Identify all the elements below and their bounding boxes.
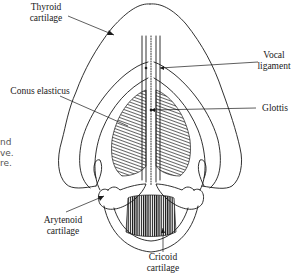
label-conus-elasticus: Conus elasticus bbox=[4, 86, 76, 97]
conus-leader bbox=[60, 96, 128, 126]
label-arytenoid-cartilage: Arytenoid cartilage bbox=[38, 215, 88, 236]
posterior-hatch bbox=[126, 195, 176, 237]
thyroid-leader bbox=[68, 16, 114, 35]
vocal-leader bbox=[160, 62, 258, 68]
conus-elasticus-right bbox=[156, 90, 191, 176]
cropped-caption-fragment: nd ve. re. bbox=[0, 137, 14, 169]
label-vocal-ligament: Vocal ligament bbox=[252, 50, 296, 71]
arytenoid-leader bbox=[66, 196, 104, 212]
label-cricoid-cartilage: Cricoid cartilage bbox=[139, 252, 187, 273]
label-thyroid-cartilage: Thyroid cartilage bbox=[22, 2, 70, 23]
conus-elasticus-left bbox=[111, 90, 146, 176]
label-glottis: Glottis bbox=[256, 103, 294, 114]
